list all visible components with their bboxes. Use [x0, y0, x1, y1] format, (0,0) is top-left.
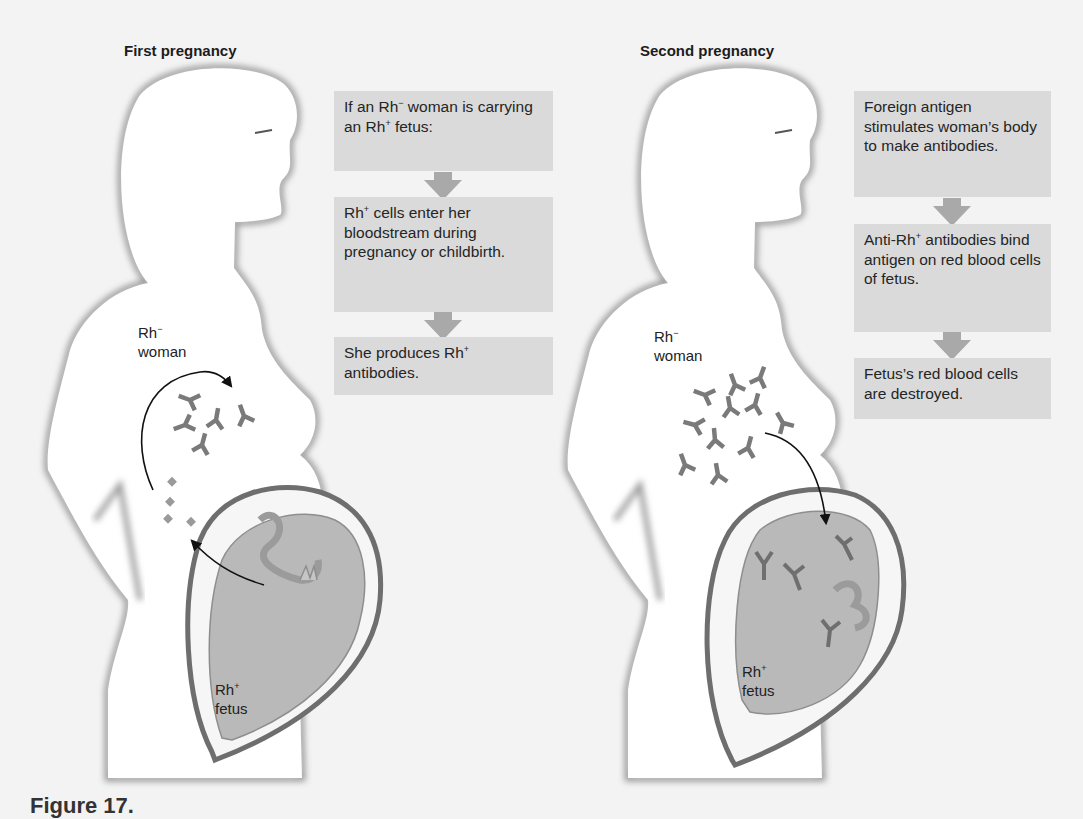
label-rh-negative-woman-second: Rh− woman: [654, 327, 702, 365]
label-rh-negative-woman-first: Rh− woman: [138, 323, 186, 361]
down-arrow-icon: [933, 206, 971, 226]
uterus-first: [188, 487, 381, 760]
step-box-p1-3: She produces Rh+ antibodies.: [334, 337, 553, 395]
step-box-p2-1: Foreign antigen stimulates woman’s body …: [854, 91, 1051, 197]
step-box-p1-1: If an Rh− woman is carrying an Rh+ fetus…: [334, 91, 553, 171]
figure-caption: Figure 17.: [30, 793, 134, 819]
down-arrow-icon: [933, 340, 971, 360]
step-box-p2-2: Anti-Rh+ antibodies bind antigen on red …: [854, 224, 1051, 332]
label-rh-positive-fetus-first: Rh+ fetus: [215, 680, 248, 718]
label-rh-positive-fetus-second: Rh+ fetus: [742, 662, 775, 700]
uterus-second: [707, 489, 904, 765]
step-box-p2-3: Fetus’s red blood cells are destroyed.: [854, 358, 1051, 419]
step-box-p1-2: Rh+ cells enter her bloodstream during p…: [334, 197, 553, 312]
